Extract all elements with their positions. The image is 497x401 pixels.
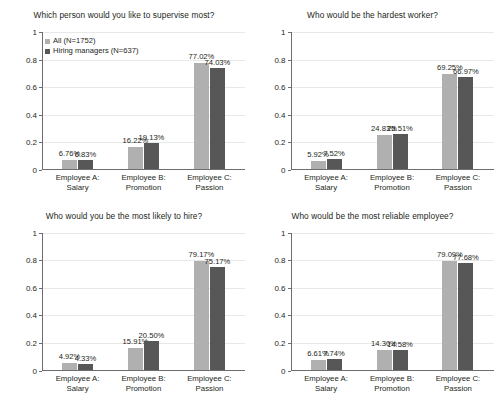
bar: 5.92% bbox=[311, 161, 326, 169]
y-tick-label: 0.2 bbox=[274, 338, 285, 347]
y-axis-line bbox=[291, 233, 292, 371]
y-tick-label: 0.4 bbox=[274, 110, 285, 119]
bar: 16.22% bbox=[128, 147, 143, 169]
y-tick-label: 0.8 bbox=[274, 256, 285, 265]
x-axis-labels: Employee A: SalaryEmployee B: PromotionE… bbox=[291, 372, 494, 401]
bar-value-label: 25.51% bbox=[387, 124, 413, 133]
legend-entry: All (N=1752) bbox=[45, 36, 138, 46]
plot-area: 00.20.40.60.814.92%4.33%15.91%20.50%79.1… bbox=[42, 233, 245, 371]
bar-value-label: 4.33% bbox=[75, 354, 97, 363]
y-tick-label: 0.8 bbox=[274, 55, 285, 64]
x-axis-labels: Employee A: SalaryEmployee B: PromotionE… bbox=[42, 171, 245, 201]
bar: 75.17% bbox=[210, 267, 225, 370]
bar: 77.02% bbox=[194, 63, 209, 169]
panel-title: Who would you be the most likely to hire… bbox=[0, 211, 248, 222]
x-axis-label: Employee B: Promotion bbox=[110, 374, 178, 394]
y-tick-label: 0.4 bbox=[26, 311, 37, 320]
bar-chart-figure: Which person would you like to supervise… bbox=[0, 0, 497, 401]
bar: 79.09% bbox=[442, 261, 457, 369]
bar-value-label: 7.74% bbox=[323, 349, 345, 358]
legend-label: Hiring managers (N=637) bbox=[53, 46, 138, 56]
chart-panel-1: Which person would you like to supervise… bbox=[0, 0, 248, 200]
y-tick-label: 1 bbox=[281, 228, 285, 237]
bar-value-label: 14.58% bbox=[387, 340, 413, 349]
bar-value-label: 19.13% bbox=[139, 133, 165, 142]
bar: 6.76% bbox=[62, 160, 77, 169]
bar-value-label: 7.52% bbox=[323, 149, 345, 158]
y-tick-label: 0.6 bbox=[274, 283, 285, 292]
chart-panel-2: Who would be the hardest worker?00.20.40… bbox=[249, 0, 497, 200]
chart-legend: All (N=1752)Hiring managers (N=637) bbox=[45, 36, 138, 56]
y-tick-label: 0 bbox=[33, 366, 37, 375]
x-axis-label: Employee A: Salary bbox=[292, 173, 360, 193]
y-tick-label: 0.2 bbox=[26, 138, 37, 147]
x-axis-label: Employee A: Salary bbox=[292, 374, 360, 394]
panel-title: Which person would you like to supervise… bbox=[0, 10, 248, 21]
y-tick-label: 0 bbox=[281, 166, 285, 175]
bar-value-label: 66.97% bbox=[453, 67, 479, 76]
legend-swatch-icon bbox=[45, 49, 50, 54]
bar-value-label: 75.17% bbox=[205, 257, 231, 266]
bar: 14.30% bbox=[377, 350, 392, 370]
y-tick-label: 0.4 bbox=[274, 311, 285, 320]
bar: 25.51% bbox=[393, 134, 408, 169]
bar: 19.13% bbox=[144, 143, 159, 169]
x-axis-line bbox=[291, 370, 494, 371]
x-axis-label: Employee C: Passion bbox=[175, 173, 243, 193]
x-axis-label: Employee C: Passion bbox=[424, 173, 492, 193]
y-tick-label: 0 bbox=[281, 366, 285, 375]
panel-title: Who would be the hardest worker? bbox=[249, 10, 497, 21]
bar-value-label: 20.50% bbox=[139, 331, 165, 340]
panel-title: Who would be the most reliable employee? bbox=[249, 211, 497, 222]
x-axis-label: Employee A: Salary bbox=[44, 173, 112, 193]
bar-group: 4.92%4.33% bbox=[62, 233, 93, 370]
y-axis-line bbox=[291, 32, 292, 170]
bar: 14.58% bbox=[393, 350, 408, 370]
x-axis-line bbox=[42, 169, 245, 170]
x-axis-label: Employee B: Promotion bbox=[358, 374, 426, 394]
bar: 79.17% bbox=[194, 261, 209, 369]
y-tick-label: 1 bbox=[281, 28, 285, 37]
plot-area: 00.20.40.60.816.61%7.74%14.30%14.58%79.0… bbox=[291, 233, 494, 371]
bar-value-label: 74.03% bbox=[205, 58, 231, 67]
legend-swatch-icon bbox=[45, 39, 50, 44]
y-tick-label: 0.6 bbox=[274, 83, 285, 92]
y-tick-label: 0.4 bbox=[26, 110, 37, 119]
bar-group: 5.92%7.52% bbox=[311, 32, 342, 169]
bar: 20.50% bbox=[144, 341, 159, 369]
x-axis-line bbox=[42, 370, 245, 371]
y-tick-label: 0.8 bbox=[26, 55, 37, 64]
x-axis-label: Employee C: Passion bbox=[175, 374, 243, 394]
x-axis-label: Employee B: Promotion bbox=[110, 173, 178, 193]
plot-area: 00.20.40.60.816.76%6.83%16.22%19.13%77.0… bbox=[42, 32, 245, 170]
bar: 4.92% bbox=[62, 363, 77, 370]
legend-label: All (N=1752) bbox=[53, 36, 95, 46]
bar: 15.91% bbox=[128, 348, 143, 370]
chart-panel-4: Who would be the most reliable employee?… bbox=[249, 201, 497, 401]
y-tick-label: 0.2 bbox=[26, 338, 37, 347]
x-axis-label: Employee B: Promotion bbox=[358, 173, 426, 193]
y-tick-label: 1 bbox=[33, 228, 37, 237]
bar-group: 15.91%20.50% bbox=[128, 233, 159, 370]
bar-group: 77.02%74.03% bbox=[194, 32, 225, 169]
x-axis-label: Employee A: Salary bbox=[44, 374, 112, 394]
y-tick-label: 0.8 bbox=[26, 256, 37, 265]
bar: 66.97% bbox=[458, 77, 473, 169]
bar: 24.83% bbox=[377, 135, 392, 169]
y-tick-label: 0.6 bbox=[26, 83, 37, 92]
bar: 77.68% bbox=[458, 263, 473, 369]
legend-entry: Hiring managers (N=637) bbox=[45, 46, 138, 56]
bar: 4.33% bbox=[78, 364, 93, 370]
bar: 74.03% bbox=[210, 68, 225, 169]
y-tick-label: 1 bbox=[33, 28, 37, 37]
x-axis-line bbox=[291, 169, 494, 170]
y-tick-label: 0.2 bbox=[274, 138, 285, 147]
x-axis-labels: Employee A: SalaryEmployee B: PromotionE… bbox=[42, 372, 245, 401]
plot-area: 00.20.40.60.815.92%7.52%24.83%25.51%69.2… bbox=[291, 32, 494, 170]
bar: 6.83% bbox=[78, 160, 93, 169]
bar-group: 14.30%14.58% bbox=[377, 233, 408, 370]
y-axis-line bbox=[42, 32, 43, 170]
bar-group: 79.17%75.17% bbox=[194, 233, 225, 370]
bar-group: 6.61%7.74% bbox=[311, 233, 342, 370]
bar: 69.25% bbox=[442, 74, 457, 169]
